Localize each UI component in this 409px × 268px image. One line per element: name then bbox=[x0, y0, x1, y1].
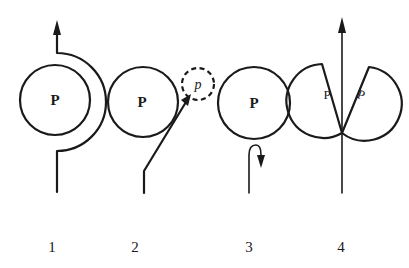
right-piece-label: P bbox=[355, 86, 367, 103]
right-ball-piece bbox=[342, 67, 402, 141]
panel-number: 2 bbox=[131, 239, 139, 255]
path-diagonal bbox=[144, 102, 186, 193]
left-piece-label: P bbox=[323, 87, 330, 102]
left-ball-piece bbox=[286, 64, 342, 138]
panel-3: P 3 bbox=[218, 67, 290, 255]
arrow-down-icon bbox=[257, 155, 265, 168]
arrow-up-icon bbox=[53, 20, 61, 35]
panel-number: 3 bbox=[245, 239, 253, 255]
panel-number: 4 bbox=[337, 239, 345, 255]
ball-label: P bbox=[50, 92, 59, 108]
panel-4: P P 4 bbox=[286, 17, 401, 255]
panel-number: 1 bbox=[48, 239, 56, 255]
ball-label: P bbox=[249, 95, 258, 111]
arrow-up-icon bbox=[338, 17, 346, 33]
diagram-canvas: P 1 P p 2 P 3 P P 4 bbox=[0, 0, 409, 268]
panel-1: P 1 bbox=[20, 20, 106, 255]
path-hook bbox=[249, 145, 261, 193]
ball-label: P bbox=[137, 94, 146, 110]
panel-2: P p 2 bbox=[108, 67, 214, 255]
path-curve-around bbox=[57, 30, 106, 192]
small-ball-label: p bbox=[194, 77, 202, 92]
